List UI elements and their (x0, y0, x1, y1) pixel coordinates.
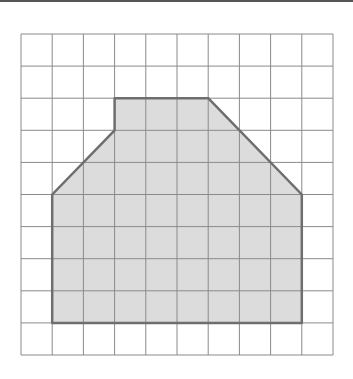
grid-diagram (0, 0, 353, 379)
